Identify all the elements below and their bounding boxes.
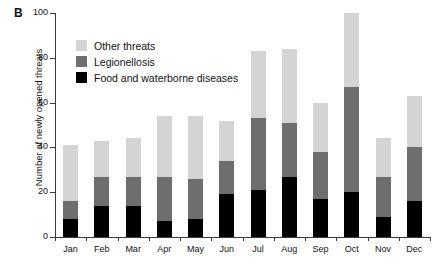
bar-segment <box>407 147 422 201</box>
bar-jun[interactable] <box>219 121 234 237</box>
bar-segment <box>282 49 297 123</box>
x-tick-mark <box>243 237 244 241</box>
bar-segment <box>282 123 297 177</box>
panel-letter: B <box>14 6 23 20</box>
bar-segment <box>63 145 78 201</box>
bar-segment <box>251 118 266 190</box>
bar-segment <box>219 121 234 161</box>
y-axis-line <box>55 13 56 237</box>
y-tick-label: 60 <box>38 97 48 107</box>
x-tick-label-nov: Nov <box>368 244 399 254</box>
x-tick-mark <box>211 237 212 241</box>
bar-segment <box>157 177 172 222</box>
stacked-bar-chart-figure: B Number of newly opened threats 0204060… <box>0 0 440 275</box>
bar-segment <box>94 177 109 206</box>
bar-segment <box>344 87 359 192</box>
y-tick-label: 20 <box>38 186 48 196</box>
bar-segment <box>94 141 109 177</box>
legend-swatch-icon <box>76 40 87 51</box>
y-tick-label: 0 <box>43 231 48 241</box>
legend-item: Other threats <box>76 38 238 53</box>
legend-swatch-icon <box>76 56 87 67</box>
x-tick-mark <box>336 237 337 241</box>
bar-segment <box>344 13 359 87</box>
x-tick-label-sep: Sep <box>305 244 336 254</box>
bar-segment <box>157 221 172 237</box>
x-tick-mark <box>86 237 87 241</box>
bar-segment <box>188 219 203 237</box>
x-tick-label-oct: Oct <box>336 244 367 254</box>
bar-segment <box>157 116 172 176</box>
bar-may[interactable] <box>188 116 203 237</box>
x-tick-mark <box>149 237 150 241</box>
bar-segment <box>188 116 203 179</box>
bar-dec[interactable] <box>407 96 422 237</box>
y-tick-label: 100 <box>33 7 48 17</box>
legend-label: Legionellosis <box>94 56 155 68</box>
legend-item: Legionellosis <box>76 54 238 69</box>
bar-segment <box>126 177 141 206</box>
y-tick-mark <box>50 13 55 14</box>
bar-segment <box>313 152 328 199</box>
bar-segment <box>376 217 391 237</box>
bar-segment <box>188 179 203 219</box>
x-tick-label-jan: Jan <box>55 244 86 254</box>
bar-segment <box>407 96 422 148</box>
y-tick-mark <box>50 103 55 104</box>
bar-segment <box>313 103 328 152</box>
bar-apr[interactable] <box>157 116 172 237</box>
bar-segment <box>313 199 328 237</box>
y-tick-mark <box>50 147 55 148</box>
x-tick-label-jul: Jul <box>243 244 274 254</box>
bar-oct[interactable] <box>344 13 359 237</box>
bar-sep[interactable] <box>313 103 328 237</box>
x-tick-label-mar: Mar <box>118 244 149 254</box>
bar-segment <box>251 51 266 118</box>
bar-segment <box>126 206 141 237</box>
bar-jan[interactable] <box>63 145 78 237</box>
x-tick-mark <box>55 237 56 241</box>
chart-legend: Other threatsLegionellosisFood and water… <box>76 38 238 86</box>
bar-segment <box>251 190 266 237</box>
bar-mar[interactable] <box>126 138 141 237</box>
y-tick-label: 40 <box>38 141 48 151</box>
y-tick-mark <box>50 58 55 59</box>
bar-segment <box>407 201 422 237</box>
y-tick-label: 80 <box>38 52 48 62</box>
x-tick-mark <box>399 237 400 241</box>
bar-segment <box>219 194 234 237</box>
bar-segment <box>63 219 78 237</box>
x-tick-mark <box>430 237 431 241</box>
x-tick-label-feb: Feb <box>86 244 117 254</box>
bar-nov[interactable] <box>376 138 391 237</box>
bar-segment <box>126 138 141 176</box>
bar-segment <box>63 201 78 219</box>
x-tick-mark <box>368 237 369 241</box>
x-tick-label-apr: Apr <box>149 244 180 254</box>
x-tick-mark <box>118 237 119 241</box>
legend-item: Food and waterborne diseases <box>76 70 238 85</box>
bar-feb[interactable] <box>94 141 109 237</box>
bar-segment <box>219 161 234 195</box>
y-tick-mark <box>50 192 55 193</box>
bar-segment <box>376 138 391 176</box>
bar-aug[interactable] <box>282 49 297 237</box>
bar-segment <box>344 192 359 237</box>
bar-segment <box>376 177 391 217</box>
x-tick-mark <box>274 237 275 241</box>
x-tick-mark <box>305 237 306 241</box>
x-tick-label-jun: Jun <box>211 244 242 254</box>
bar-segment <box>282 177 297 237</box>
bar-jul[interactable] <box>251 51 266 237</box>
legend-label: Food and waterborne diseases <box>94 72 238 84</box>
x-tick-mark <box>180 237 181 241</box>
legend-swatch-icon <box>76 72 87 83</box>
x-tick-label-may: May <box>180 244 211 254</box>
bar-segment <box>94 206 109 237</box>
x-tick-label-dec: Dec <box>399 244 430 254</box>
legend-label: Other threats <box>94 40 155 52</box>
x-tick-label-aug: Aug <box>274 244 305 254</box>
